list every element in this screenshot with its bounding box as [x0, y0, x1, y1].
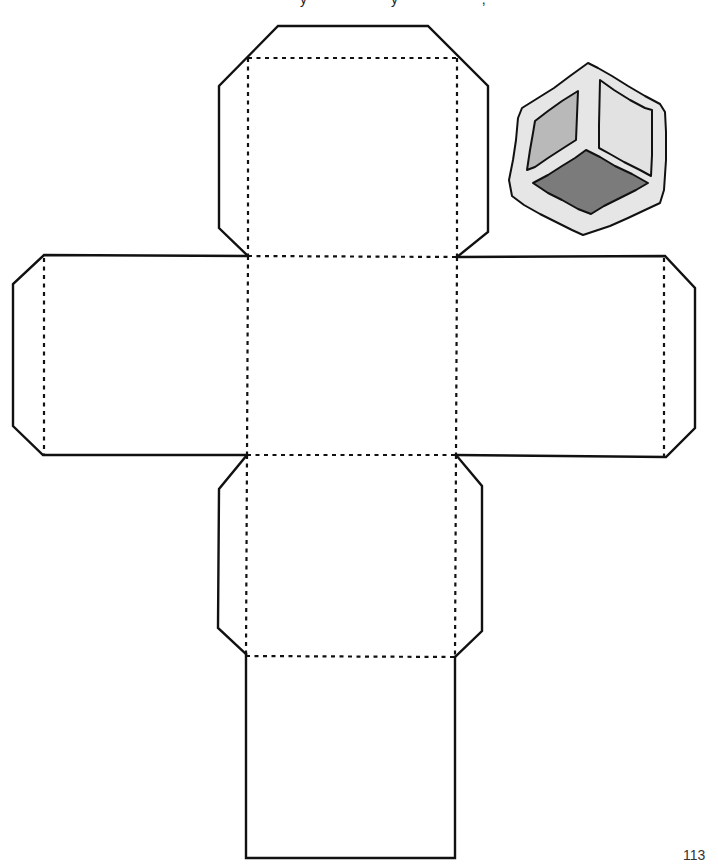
cube-net-diagram [0, 0, 718, 867]
page-number: 113 [683, 847, 705, 863]
printable-page: y y , [0, 0, 718, 867]
lower-face-cut-line-right [455, 455, 482, 657]
right-face-cut-line [456, 256, 695, 457]
top-face-cut-line [219, 26, 488, 257]
fold-line-center-top [248, 256, 457, 257]
fold-line-center-right [456, 257, 457, 455]
bottom-face-cut-line [246, 654, 455, 858]
fold-line-lower-bottom [246, 656, 455, 657]
lower-face-cut-line [218, 455, 247, 654]
cube-illustration [509, 63, 666, 235]
left-face-cut-line [13, 255, 248, 455]
fold-line-lower-left [246, 455, 247, 654]
fold-line-center-left [247, 256, 248, 455]
fold-line-lower-right [455, 455, 456, 657]
